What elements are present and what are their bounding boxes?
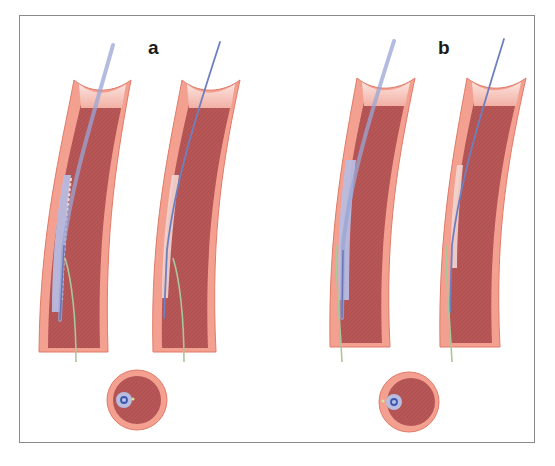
cross-section-b	[379, 372, 439, 432]
vessel-b1	[330, 41, 415, 362]
cs-green-wire	[132, 398, 135, 401]
vessel-a1	[39, 45, 131, 362]
cs-green-wire	[382, 400, 385, 403]
cs-sheath	[116, 392, 132, 408]
cross-section-a	[107, 370, 167, 430]
cs-sheath	[386, 394, 402, 410]
vessel-diagram	[0, 0, 555, 466]
vessel-b2	[440, 39, 526, 362]
guidewire-core	[342, 250, 343, 318]
vessel-a2	[153, 42, 240, 362]
